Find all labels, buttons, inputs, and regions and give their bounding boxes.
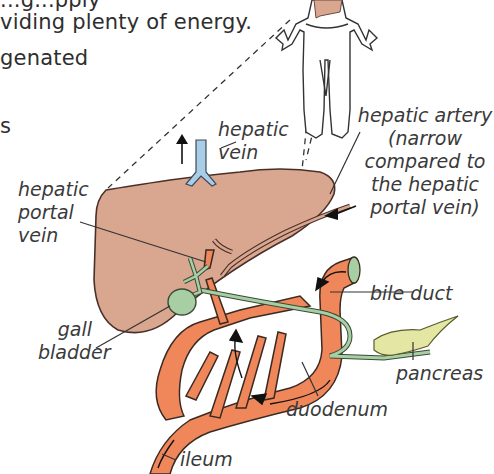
label-ileum: ileum — [180, 448, 233, 471]
label-bile-duct: bile duct — [370, 282, 452, 305]
hepatic-vein-arrow — [176, 134, 188, 164]
duodenum-opening — [348, 257, 360, 283]
body-text-line-4: s — [0, 114, 11, 138]
gall-bladder — [168, 289, 196, 315]
body-text-line-3: genated — [0, 46, 88, 70]
label-pancreas: pancreas — [396, 362, 483, 385]
label-hepatic-portal-vein: hepatic portal vein — [18, 178, 89, 247]
label-duodenum: duodenum — [286, 398, 388, 421]
label-hepatic-vein: hepatic vein — [218, 118, 289, 164]
pancreas — [374, 316, 458, 355]
body-text-line-2: viding plenty of energy. — [0, 10, 252, 34]
label-gall-bladder: gall bladder — [38, 318, 92, 364]
label-hepatic-artery: hepatic artery (narrow compared to the h… — [356, 104, 494, 219]
